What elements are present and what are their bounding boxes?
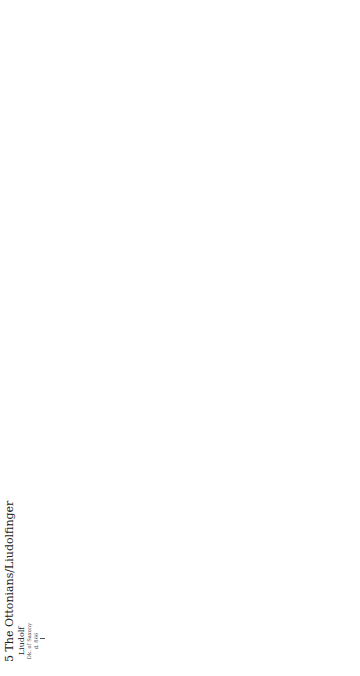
chart-title: 5 The Ottonians/Liudolfinger xyxy=(3,501,16,662)
node-liudolf: Liudolf Dk. of Saxony d. 866 xyxy=(17,623,40,659)
family-tree-diagram: 5 The Ottonians/Liudolfinger Liudolf Dk.… xyxy=(0,0,360,676)
